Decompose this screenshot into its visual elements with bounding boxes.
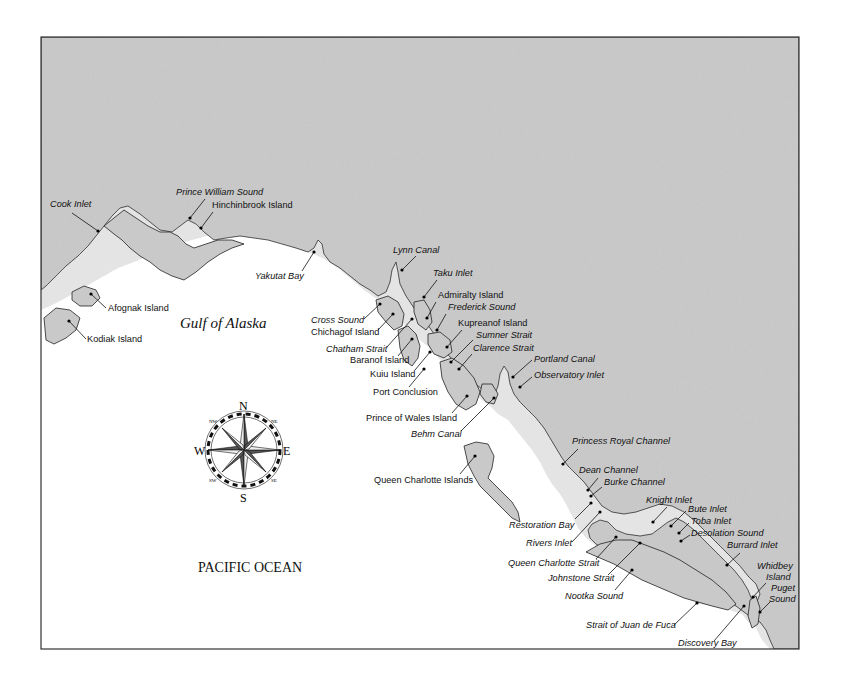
place-name: Discovery Bay: [678, 638, 738, 648]
location-dot-icon: [677, 531, 680, 534]
location-dot-icon: [614, 535, 617, 538]
location-dot-icon: [758, 610, 761, 613]
place-name: Kuiu Island: [370, 369, 415, 379]
place-name: Taku Inlet: [433, 268, 473, 278]
location-dot-icon: [669, 524, 672, 527]
location-dot-icon: [742, 604, 745, 607]
location-dot-icon: [589, 494, 592, 497]
location-dot-icon: [199, 226, 202, 229]
pacific-ocean-label: PACIFIC OCEAN: [198, 560, 302, 575]
place-name: Prince of Wales Island: [366, 413, 457, 423]
location-dot-icon: [586, 488, 589, 491]
location-dot-icon: [96, 229, 99, 232]
location-dot-icon: [651, 520, 654, 523]
location-dot-icon: [679, 539, 682, 542]
location-dot-icon: [422, 367, 425, 370]
place-name: Sumner Strait: [476, 330, 533, 340]
place-name: Knight Inlet: [646, 495, 692, 505]
location-dot-icon: [589, 501, 592, 504]
place-name: Cook Inlet: [50, 199, 92, 209]
place-name: Behm Canal: [411, 429, 463, 439]
place-name: Puget: [771, 583, 795, 593]
place-name: Queen Charlotte Islands: [374, 475, 473, 485]
compass-sw: SW: [209, 478, 217, 483]
place-name: Observatory Inlet: [534, 370, 604, 380]
place-name: Baranof Island: [350, 355, 409, 365]
location-dot-icon: [492, 396, 495, 399]
compass-n: N: [239, 399, 248, 413]
location-dot-icon: [410, 337, 413, 340]
compass-se: SE: [271, 478, 277, 483]
location-dot-icon: [378, 302, 381, 305]
place-name: Cross Sound: [311, 315, 365, 325]
place-name: Restoration Bay: [509, 520, 576, 530]
compass-ne: NE: [271, 419, 278, 424]
location-dot-icon: [449, 360, 452, 363]
location-dot-icon: [630, 568, 633, 571]
place-name: Rivers Inlet: [526, 538, 572, 548]
place-name: Burke Channel: [604, 477, 666, 487]
location-dot-icon: [445, 345, 448, 348]
place-name: Kodiak Island: [87, 334, 142, 344]
location-dot-icon: [89, 292, 92, 295]
place-name-line2: Island: [766, 572, 791, 582]
place-name: Burrard Inlet: [727, 540, 778, 550]
location-dot-icon: [725, 563, 728, 566]
place-name: Whidbey: [757, 561, 794, 571]
place-name: Desolation Sound: [691, 528, 764, 538]
location-dot-icon: [511, 375, 514, 378]
place-name: Kupreanof Island: [458, 318, 527, 328]
place-name: Queen Charlotte Strait: [508, 558, 600, 568]
location-dot-icon: [518, 385, 521, 388]
location-dot-icon: [400, 268, 403, 271]
location-dot-icon: [465, 394, 468, 397]
location-dot-icon: [312, 250, 315, 253]
place-name: Chatham Strait: [326, 344, 388, 354]
location-dot-icon: [473, 454, 476, 457]
location-dot-icon: [435, 328, 438, 331]
place-name: Hinchinbrook Island: [212, 200, 293, 210]
location-dot-icon: [751, 595, 754, 598]
location-dot-icon: [410, 317, 413, 320]
location-dot-icon: [457, 367, 460, 370]
compass-w: W: [194, 444, 206, 458]
location-dot-icon: [422, 295, 425, 298]
compass-e: E: [283, 444, 290, 458]
location-dot-icon: [188, 216, 191, 219]
compass-s: S: [240, 491, 247, 505]
location-dot-icon: [598, 510, 601, 513]
place-name-line2: Sound: [769, 594, 796, 604]
place-name: Johnstone Strait: [547, 573, 615, 583]
place-name: Yakutat Bay: [255, 271, 305, 281]
place-name: Strait of Juan de Fuca: [586, 620, 676, 630]
place-name: Toba Inlet: [691, 516, 731, 526]
location-dot-icon: [638, 541, 641, 544]
location-dot-icon: [67, 319, 70, 322]
location-dot-icon: [695, 601, 698, 604]
place-name: Prince William Sound: [176, 187, 264, 197]
place-name: Portland Canal: [534, 354, 596, 364]
place-name: Chichagof Island: [311, 327, 379, 337]
place-name: Nootka Sound: [565, 591, 624, 601]
location-dot-icon: [425, 316, 428, 319]
map-canvas: Gulf of Alaska PACIFIC OCEAN N S E W NE …: [0, 0, 842, 687]
place-name: Admiralty Island: [438, 290, 503, 300]
place-name: Lynn Canal: [393, 245, 440, 255]
place-name: Bute Inlet: [688, 504, 727, 514]
place-name: Clarence Strait: [473, 343, 534, 353]
gulf-of-alaska-label: Gulf of Alaska: [180, 315, 266, 331]
place-name: Princess Royal Channel: [572, 436, 671, 446]
place-name: Dean Channel: [579, 465, 639, 475]
place-name: Port Conclusion: [373, 387, 438, 397]
location-dot-icon: [428, 350, 431, 353]
compass-nw: NW: [209, 419, 218, 424]
location-dot-icon: [391, 312, 394, 315]
place-name: Afognak Island: [108, 303, 169, 313]
place-name: Frederick Sound: [448, 302, 516, 312]
location-dot-icon: [561, 462, 564, 465]
